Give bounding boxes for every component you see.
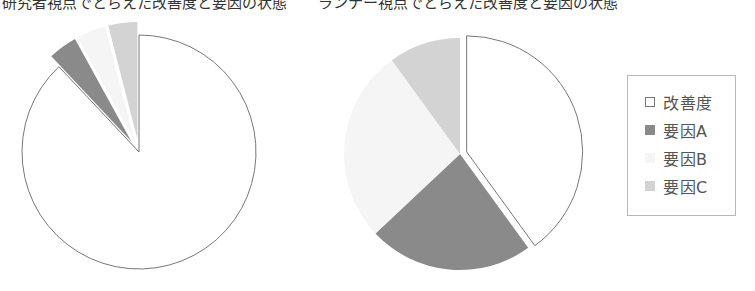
legend: 改善度 要因A 要因B 要因C (627, 75, 736, 216)
legend-swatch-factor-c (645, 181, 655, 191)
pie-chart-researcher (22, 22, 256, 269)
legend-swatch-improvement (645, 97, 655, 107)
legend-item-factor-c: 要因C (645, 176, 708, 196)
pie-slice-0 (22, 35, 256, 269)
pie-chart-runner (344, 36, 583, 270)
legend-item-factor-a: 要因A (645, 120, 707, 140)
legend-swatch-factor-b (645, 153, 655, 163)
legend-item-factor-b: 要因B (645, 148, 707, 168)
legend-swatch-factor-a (645, 125, 655, 135)
legend-item-improvement: 改善度 (645, 92, 713, 112)
